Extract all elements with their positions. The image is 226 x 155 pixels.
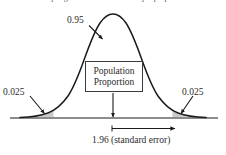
population-proportion-box: Population Proportion xyxy=(85,61,143,92)
population-proportion-line-2: Proportion xyxy=(94,77,135,88)
center-probability-label: 0.95 xyxy=(67,15,84,25)
population-proportion-line-1: Population xyxy=(93,66,134,77)
left-tail-probability-label: 0.025 xyxy=(3,87,24,97)
margin-of-error-label: 1.96 (standard error) xyxy=(92,135,170,145)
sampling-distribution-figure: sampling distribution of the sample prop… xyxy=(0,0,226,155)
left-tail-pointer xyxy=(30,96,45,114)
center-probability-pointer xyxy=(89,26,103,40)
right-tail-pointer xyxy=(181,96,193,114)
right-tail-probability-label: 0.025 xyxy=(182,87,203,97)
